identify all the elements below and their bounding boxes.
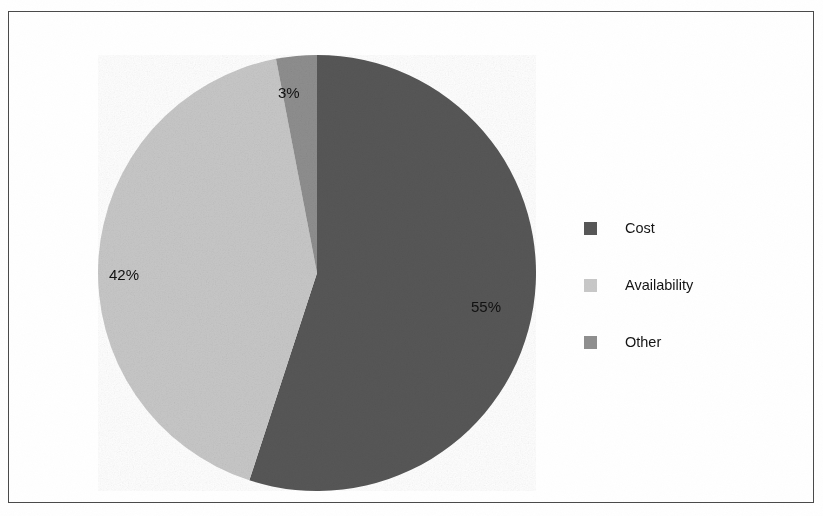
legend-item-cost[interactable]: Cost	[584, 217, 774, 239]
legend-label-cost: Cost	[625, 221, 655, 236]
slice-label-cost: 55%	[471, 298, 501, 315]
legend-label-other: Other	[625, 335, 661, 350]
legend-swatch-other	[584, 336, 597, 349]
legend: Cost Availability Other	[584, 217, 774, 353]
pie-chart	[98, 55, 536, 491]
legend-label-availability: Availability	[625, 278, 693, 293]
legend-swatch-availability	[584, 279, 597, 292]
slice-label-other: 3%	[278, 84, 300, 101]
legend-item-other[interactable]: Other	[584, 331, 774, 353]
chart-frame: 55% 42% 3% Cost Availability Other	[8, 11, 814, 503]
legend-item-availability[interactable]: Availability	[584, 274, 774, 296]
legend-swatch-cost	[584, 222, 597, 235]
pie-svg	[98, 55, 536, 491]
slice-label-availability: 42%	[109, 266, 139, 283]
